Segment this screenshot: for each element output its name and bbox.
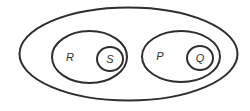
label-q: Q: [196, 52, 205, 64]
label-s: S: [106, 53, 114, 65]
label-p: P: [156, 50, 164, 62]
set-p-ellipse: [142, 31, 220, 82]
venn-diagram: R S P Q: [0, 0, 250, 111]
set-r-ellipse: [52, 31, 127, 83]
label-r: R: [66, 51, 74, 63]
